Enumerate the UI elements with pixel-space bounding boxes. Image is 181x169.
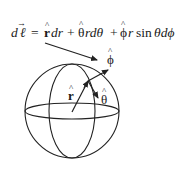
eq-rdtheta: rdθ: [85, 25, 104, 40]
eq-r: r: [128, 25, 134, 40]
eq-plus-1: +: [67, 25, 75, 40]
pointer-arrow-icon: [45, 43, 97, 60]
r-hat-arrow-icon: [84, 81, 88, 88]
unit-vector-labels: r ^ θ ^ ϕ ^: [68, 46, 114, 107]
theta-hat-arrow-icon: [88, 81, 98, 98]
eq-plus-2: +: [110, 25, 118, 40]
eq-equals: =: [31, 25, 39, 40]
spherical-line-element-diagram: d ℓ → = r ^ dr + θ ^ rdθ + ϕ ^ r sin θdϕ…: [0, 0, 181, 169]
line-element-equation: d ℓ → = r ^ dr + θ ^ rdθ + ϕ ^ r sin θdϕ: [11, 18, 174, 40]
eq-sin: sin: [136, 25, 152, 40]
vector-arrow-icon: →: [17, 18, 26, 28]
eq-dr: dr: [51, 25, 64, 40]
eq-thetadphi: θdϕ: [154, 25, 174, 40]
